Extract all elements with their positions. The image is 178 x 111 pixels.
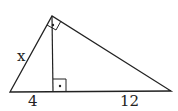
outer-triangle xyxy=(10,16,171,92)
label-4: 4 xyxy=(28,92,38,110)
triangle-diagram: x 4 12 xyxy=(0,0,178,111)
label-x: x xyxy=(17,47,26,65)
foot-dot xyxy=(59,85,61,87)
apex-dot xyxy=(52,24,54,26)
label-12: 12 xyxy=(120,92,139,110)
